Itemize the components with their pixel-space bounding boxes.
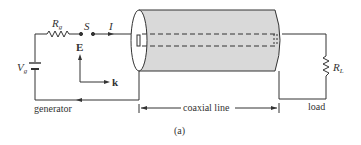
dim-arrow-right-icon (271, 106, 277, 110)
transmission-line-diagram: Rg S I Vg E k generator coaxial line loa… (0, 0, 361, 145)
generator-circuit (29, 31, 139, 102)
switch-contact-icon (79, 32, 82, 35)
load-circuit (279, 34, 329, 99)
resistor-rg-icon (47, 31, 69, 37)
current-label: I (109, 21, 113, 32)
dim-arrow-left-icon (141, 106, 147, 110)
generator-label: generator (34, 104, 72, 114)
e-field-arrow-icon (78, 54, 82, 60)
current-arrow-icon (108, 32, 114, 36)
source-voltage-label: Vg (17, 62, 27, 75)
load-label: load (308, 102, 325, 112)
k-vector-label: k (112, 77, 118, 88)
load-resistor-label: RL (333, 62, 344, 75)
coaxial-line-label: coaxial line (183, 103, 229, 113)
switch-label: S (84, 21, 90, 32)
k-vector-arrow-icon (104, 80, 110, 84)
figure-caption: (a) (174, 126, 185, 136)
return-arrow-icon (76, 98, 82, 102)
coaxial-cable (131, 10, 280, 71)
resistor-rg-label: Rg (52, 18, 62, 31)
field-axes (78, 54, 110, 84)
e-field-label: E (76, 42, 83, 53)
resistor-rl-icon (323, 56, 329, 76)
